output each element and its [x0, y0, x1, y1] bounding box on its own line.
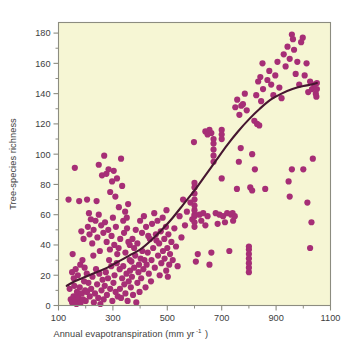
data-point [111, 272, 117, 278]
data-point [109, 298, 115, 304]
data-point [300, 166, 306, 172]
data-point [94, 281, 100, 287]
data-point [276, 84, 282, 90]
data-point [107, 246, 113, 252]
data-point [122, 249, 128, 255]
data-point [120, 263, 126, 269]
x-axis-title: Annual evapotranspiration (mm yr [53, 329, 194, 339]
data-point [102, 219, 108, 225]
data-point [104, 239, 110, 245]
data-point [268, 81, 274, 87]
data-point [210, 153, 216, 159]
data-point [262, 186, 268, 192]
data-point [113, 224, 119, 230]
data-point [240, 101, 246, 107]
data-point [256, 122, 262, 128]
data-point [182, 222, 188, 228]
data-point [110, 215, 116, 221]
data-point [289, 166, 295, 172]
data-point [78, 228, 84, 234]
data-point [79, 257, 85, 263]
data-point [165, 231, 171, 237]
scatter-plot-svg: 020406080100120140160180 100300500700900… [0, 0, 351, 352]
data-point [86, 210, 92, 216]
y-tick-label: 40 [40, 240, 50, 250]
y-tick-label: 120 [35, 119, 50, 129]
data-point [91, 299, 97, 305]
data-point [141, 213, 147, 219]
data-point [161, 255, 167, 261]
data-point [234, 186, 240, 192]
data-point [82, 265, 88, 271]
data-point [142, 284, 148, 290]
x-tick-label: 700 [214, 313, 229, 323]
data-point [232, 213, 238, 219]
data-point [75, 272, 81, 278]
data-point [119, 275, 125, 281]
data-point [278, 95, 284, 101]
data-point [144, 262, 150, 268]
x-tick-label: 300 [105, 313, 120, 323]
data-point [122, 290, 128, 296]
data-point [252, 166, 258, 172]
data-point [294, 59, 300, 65]
x-tick-label: 900 [268, 313, 283, 323]
data-point [94, 234, 100, 240]
data-point [92, 218, 98, 224]
data-point [290, 36, 296, 42]
data-point [145, 233, 151, 239]
y-tick-label: 60 [40, 210, 50, 220]
data-point [108, 233, 114, 239]
data-point [154, 218, 160, 224]
data-point [310, 156, 316, 162]
data-point [167, 251, 173, 257]
data-point [208, 130, 214, 136]
data-point [101, 153, 107, 159]
data-point [168, 239, 174, 245]
data-point [104, 292, 110, 298]
data-point [70, 251, 76, 257]
data-point [171, 225, 177, 231]
data-point [89, 240, 95, 246]
data-point [117, 286, 123, 292]
data-point [143, 224, 149, 230]
data-point [65, 196, 71, 202]
data-point [124, 225, 130, 231]
data-point [204, 213, 210, 219]
y-tick-label: 80 [40, 180, 50, 190]
data-point [303, 60, 309, 66]
data-point [72, 165, 78, 171]
data-point [84, 196, 90, 202]
data-point [102, 283, 108, 289]
data-point [302, 72, 308, 78]
data-point [258, 98, 264, 104]
data-point [125, 201, 131, 207]
x-axis-title-superscript: -1 [196, 327, 202, 334]
data-point [76, 198, 82, 204]
data-point [226, 248, 232, 254]
data-point [95, 295, 101, 301]
data-point [148, 278, 154, 284]
data-point [304, 199, 310, 205]
data-point [145, 249, 151, 255]
data-point [246, 243, 252, 249]
x-tick-label: 500 [160, 313, 175, 323]
data-point [208, 249, 214, 255]
data-point [195, 251, 201, 257]
data-point [87, 293, 93, 299]
data-point [133, 299, 139, 305]
data-point [210, 147, 216, 153]
x-axis-title-tail: ) [205, 329, 208, 339]
data-point [283, 63, 289, 69]
data-point [136, 262, 142, 268]
data-point [150, 245, 156, 251]
data-point [191, 180, 197, 186]
data-point [96, 162, 102, 168]
data-point [106, 257, 112, 263]
data-point [193, 259, 199, 265]
data-point [118, 156, 124, 162]
data-point [111, 168, 117, 174]
data-point [244, 107, 250, 113]
data-point [234, 97, 240, 103]
data-point [105, 275, 111, 281]
